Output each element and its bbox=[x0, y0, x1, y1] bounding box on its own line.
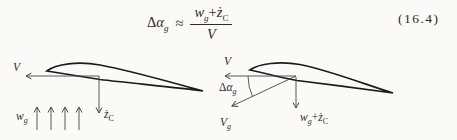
airfoil-outline bbox=[47, 63, 203, 91]
airfoil-outline bbox=[250, 63, 393, 93]
gust-angle-label: Δαg bbox=[219, 81, 236, 96]
velocity-triangle-diagram: V Δαg Vg wg+żC bbox=[219, 55, 393, 131]
velocity-label: V bbox=[224, 55, 233, 67]
airfoil-diagrams: V wg żC V Δαg Vg wg+żC bbox=[0, 0, 457, 140]
resultant-velocity-arrow bbox=[232, 76, 296, 106]
angle-arc bbox=[248, 76, 253, 97]
resultant-velocity-label: Vg bbox=[220, 116, 231, 131]
gust-response-figure: Δαg ≈ wg+żC V (16.4) V wg żC bbox=[0, 0, 457, 140]
gust-velocity-arrows bbox=[37, 107, 79, 130]
gust-sum-label: wg+żC bbox=[300, 111, 328, 126]
plunge-rate-label: żC bbox=[103, 108, 114, 123]
gust-velocity-label: wg bbox=[16, 110, 28, 125]
velocity-label: V bbox=[13, 61, 22, 73]
gust-field-diagram: V wg żC bbox=[13, 61, 203, 130]
